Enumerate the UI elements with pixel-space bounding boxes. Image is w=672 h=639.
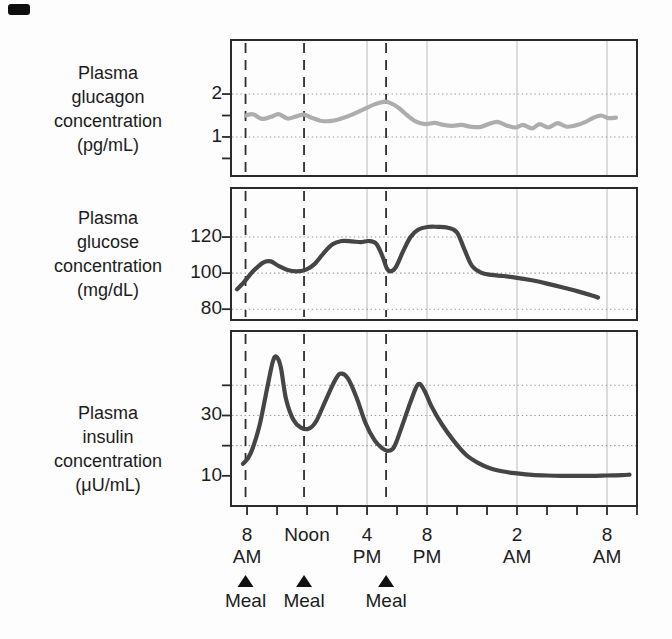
x-tick-label: Noon <box>275 525 339 545</box>
meal-triangle-icon <box>238 575 254 587</box>
x-tick-label: 2 <box>485 525 549 545</box>
insulin-y-tick-label: 30 <box>146 404 222 424</box>
chart-panel-glucose <box>231 188 637 320</box>
glucose-y-tick-label: 80 <box>146 298 222 318</box>
glucose-y-tick-label: 100 <box>146 262 222 282</box>
insulin-y-tick-label: 10 <box>146 465 222 485</box>
meal-triangle-icon <box>378 575 394 587</box>
glucagon-y-tick-label: 2 <box>146 83 222 103</box>
x-tick-label: 8 <box>395 525 459 545</box>
x-tick-label: AM <box>215 547 279 567</box>
chart-panel-glucagon <box>231 40 637 176</box>
x-tick-label: PM <box>335 547 399 567</box>
glucagon-curve <box>246 102 616 129</box>
glucose-y-tick-label: 120 <box>146 226 222 246</box>
figure: Plasma glucagon concentration (pg/mL) Pl… <box>0 0 672 639</box>
x-tick-label: 8 <box>575 525 639 545</box>
x-tick-label: PM <box>395 547 459 567</box>
insulin-curve <box>243 356 630 475</box>
meal-label: Meal <box>272 591 336 611</box>
meal-label: Meal <box>354 591 418 611</box>
meal-triangle-icon <box>296 575 312 587</box>
x-tick-label: AM <box>575 547 639 567</box>
glucagon-y-tick-label: 1 <box>146 126 222 146</box>
meal-label: Meal <box>214 591 278 611</box>
x-tick-label: AM <box>485 547 549 567</box>
x-tick-label: 4 <box>335 525 399 545</box>
x-tick-label: 8 <box>215 525 279 545</box>
